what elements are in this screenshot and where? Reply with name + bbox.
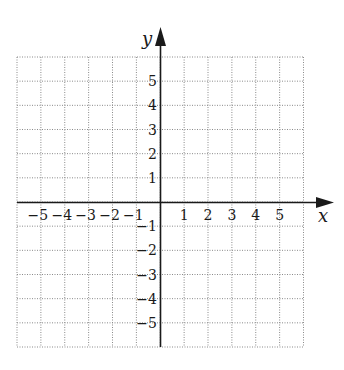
- x-tick-label: 2: [204, 207, 213, 223]
- x-tick-label: −3: [75, 207, 96, 223]
- x-tick-label: 3: [227, 207, 236, 223]
- y-tick-label: −5: [136, 315, 157, 331]
- y-tick-label: −4: [136, 291, 157, 307]
- y-tick-label: 2: [148, 146, 157, 162]
- x-tick-label: 1: [180, 207, 189, 223]
- y-tick-label: 5: [148, 73, 157, 89]
- y-axis-label: y: [141, 28, 153, 49]
- x-tick-label: 5: [275, 207, 284, 223]
- y-tick-label: −1: [136, 218, 157, 234]
- y-tick-label: −2: [136, 242, 157, 258]
- y-tick-label: 1: [148, 170, 157, 186]
- y-tick-label: −3: [136, 267, 157, 283]
- x-tick-label: −4: [51, 207, 72, 223]
- y-axis-arrow-icon: [155, 27, 166, 46]
- y-tick-label: 4: [148, 97, 157, 113]
- x-tick-label: −2: [99, 207, 120, 223]
- x-tick-label: 4: [251, 207, 260, 223]
- x-tick-label: −5: [28, 207, 49, 223]
- coordinate-plane: −5−4−3−2−112345 54321−1−2−3−4−5 x y: [0, 0, 344, 370]
- x-axis-label: x: [318, 205, 328, 226]
- y-tick-label: 3: [148, 122, 157, 138]
